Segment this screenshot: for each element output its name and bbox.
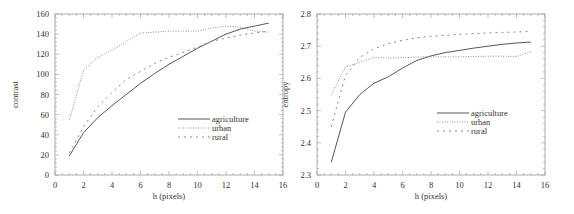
series-rural (69, 31, 268, 153)
y-tick-label: 2.3 (300, 170, 311, 180)
y-tick-label: 2.6 (300, 73, 311, 83)
x-tick-label: 14 (250, 180, 259, 190)
x-tick-label: 0 (315, 180, 319, 190)
y-tick-label: 60 (41, 110, 50, 120)
legend: agricultureurbanrural (437, 108, 508, 136)
chart-contrast: 0246810121416020406080100120140160h (pix… (10, 9, 287, 201)
x-tick-label: 12 (222, 180, 231, 190)
y-axis-label: contrast (10, 80, 20, 108)
y-tick-label: 160 (36, 9, 49, 19)
y-tick-label: 100 (36, 69, 49, 79)
legend-label-rural: rural (212, 132, 229, 142)
x-tick-label: 2 (343, 180, 347, 190)
x-tick-label: 12 (484, 180, 493, 190)
x-tick-label: 4 (372, 180, 377, 190)
x-tick-label: 6 (400, 180, 404, 190)
series-urban (331, 52, 531, 95)
x-tick-label: 2 (81, 180, 85, 190)
y-axis-label: entropy (280, 81, 290, 108)
x-tick-label: 10 (455, 180, 464, 190)
y-tick-label: 2.8 (300, 9, 311, 19)
x-axis-label: h (pixels) (415, 191, 448, 201)
legend-label-rural: rural (471, 126, 488, 136)
x-tick-label: 16 (279, 180, 288, 190)
x-tick-label: 6 (138, 180, 142, 190)
chart-entropy: 02468101214162.32.42.52.62.72.8h (pixels… (280, 9, 549, 201)
x-tick-label: 16 (541, 180, 550, 190)
legend: agricultureurbanrural (178, 114, 249, 142)
y-tick-label: 40 (41, 130, 50, 140)
y-tick-label: 80 (41, 90, 50, 100)
plot-frame (317, 14, 545, 175)
figure: 0246810121416020406080100120140160h (pix… (0, 0, 574, 214)
line-charts: 0246810121416020406080100120140160h (pix… (0, 0, 574, 214)
x-tick-label: 14 (512, 180, 521, 190)
series-urban (69, 26, 268, 120)
y-tick-label: 2.4 (300, 138, 311, 148)
series-agriculture (331, 42, 531, 162)
plot-frame (55, 14, 283, 175)
x-tick-label: 8 (167, 180, 171, 190)
y-tick-label: 2.5 (300, 106, 311, 116)
series-agriculture (69, 23, 268, 156)
x-tick-label: 0 (53, 180, 57, 190)
x-tick-label: 10 (193, 180, 202, 190)
x-tick-label: 4 (110, 180, 115, 190)
y-tick-label: 140 (36, 29, 49, 39)
x-tick-label: 8 (429, 180, 433, 190)
y-tick-label: 0 (45, 170, 49, 180)
x-axis-label: h (pixels) (153, 191, 186, 201)
y-tick-label: 120 (36, 49, 49, 59)
y-tick-label: 2.7 (300, 41, 311, 51)
y-tick-label: 20 (41, 150, 50, 160)
